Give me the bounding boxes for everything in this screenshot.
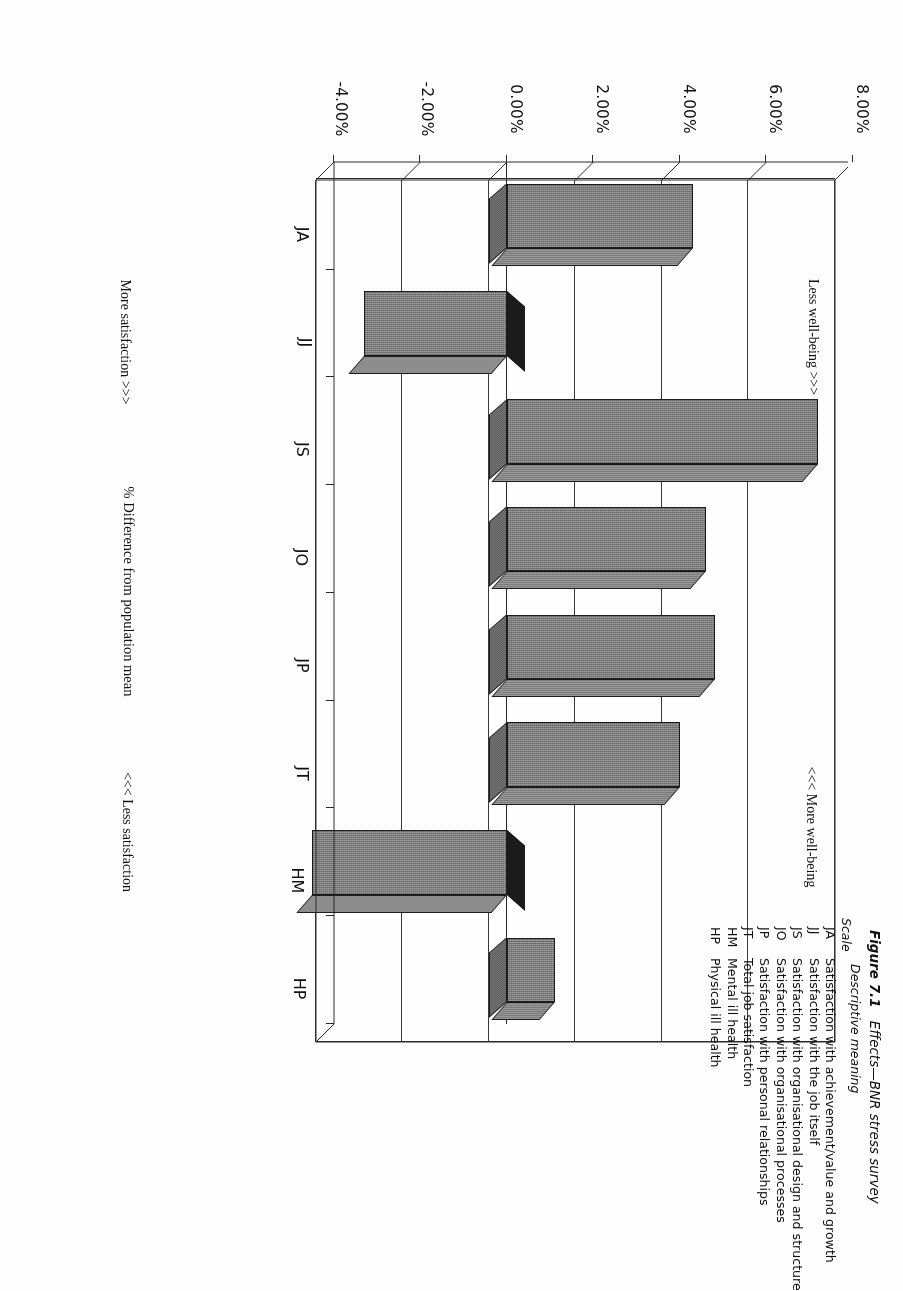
bar-chart: JAJJJSJOJPJTHMHP8.00%6.00%4.00%2.00%0.00…	[303, 147, 848, 1052]
value-axis-title: % Difference from population mean	[120, 487, 137, 697]
value-tick	[506, 155, 507, 162]
category-label-jo: JO	[292, 549, 311, 566]
category-tick	[326, 700, 334, 701]
legend-row: HPPhysical ill health	[707, 918, 723, 1218]
value-tick-label: -4.00%	[332, 82, 350, 137]
figure-caption-block: Figure 7.1 Effects—BNR stress survey Sca…	[707, 918, 883, 1218]
legend-meaning-header: Descriptive meaning	[848, 964, 863, 1093]
legend-row-code: JJ	[805, 918, 821, 958]
legend-row-code: JS	[789, 918, 805, 958]
legend-row-description: Satisfaction with achievement/value and …	[822, 958, 838, 1263]
gridline	[748, 180, 749, 1042]
value-tick	[766, 155, 767, 162]
legend-rows: JASatisfaction with achievement/value an…	[707, 918, 838, 1218]
legend-row-description: Physical ill health	[707, 958, 723, 1218]
value-tick-label: -2.00%	[418, 82, 436, 137]
bar-face	[312, 830, 507, 895]
legend-row-code: JT	[740, 918, 756, 958]
bar-top-face	[491, 679, 714, 697]
bar-top-face	[491, 571, 706, 589]
figure-number: Figure 7.1	[867, 930, 883, 1008]
bar-face	[507, 399, 818, 464]
bar-jo	[507, 507, 706, 572]
category-tick	[326, 592, 334, 593]
value-tick-label: 6.00%	[767, 84, 785, 133]
bar-hm	[312, 830, 507, 895]
bar-top-face	[491, 787, 680, 805]
bar-face	[507, 184, 693, 249]
legend-row-description: Total job satisfaction	[740, 958, 756, 1218]
legend-row-code: HM	[723, 918, 739, 958]
figure-caption: Figure 7.1 Effects—BNR stress survey	[867, 918, 883, 1218]
legend-row-description: Satisfaction with the job itself	[805, 958, 821, 1218]
legend-row: JASatisfaction with achievement/value an…	[822, 918, 838, 1218]
legend-row: JSSatisfaction with organisational desig…	[789, 918, 805, 1218]
bar-face	[364, 291, 507, 356]
value-tick-label: 2.00%	[594, 84, 612, 133]
bar-top-face	[491, 464, 818, 482]
annotation-less-satisfaction: <<< Less satisfaction	[119, 772, 135, 892]
annotation-less-wellbeing: Less well-being >>>	[805, 279, 821, 395]
legend-row-description: Mental ill health	[723, 958, 739, 1218]
legend-row-code: JO	[772, 918, 788, 958]
bar-jp	[507, 615, 715, 680]
bar-ja	[507, 184, 693, 249]
bar-hp	[507, 938, 555, 1003]
category-tick	[326, 1023, 334, 1024]
bar-top-face	[349, 356, 507, 374]
bar-face	[507, 507, 706, 572]
legend-row-code: JA	[822, 918, 838, 958]
annotation-more-satisfaction: More satisfaction >>>	[117, 280, 133, 405]
category-label-js: JS	[293, 442, 312, 457]
bar-jj	[364, 291, 507, 356]
category-label-hp: HP	[290, 978, 309, 1000]
value-tick	[333, 155, 334, 162]
bar-top-face	[297, 895, 507, 913]
category-label-hm: HM	[288, 868, 307, 894]
category-tick	[326, 808, 334, 809]
gridline	[575, 180, 576, 1042]
value-tick-label: 4.00%	[680, 84, 698, 133]
legend-row-description: Satisfaction with organisational design …	[789, 958, 805, 1291]
category-label-jp: JP	[293, 658, 312, 672]
legend-row: HMMental ill health	[723, 918, 739, 1218]
bar-js	[507, 399, 818, 464]
gridline	[661, 180, 662, 1042]
bar-top-face	[491, 248, 693, 266]
legend-row-code: HP	[707, 918, 723, 958]
legend-row: JPSatisfaction with personal relationshi…	[756, 918, 772, 1218]
legend-row-description: Satisfaction with personal relationships	[756, 958, 772, 1218]
value-tick	[679, 155, 680, 162]
category-tick	[326, 269, 334, 270]
value-tick-label: 0.00%	[507, 84, 525, 133]
category-tick	[326, 484, 334, 485]
category-label-jj: JJ	[296, 337, 315, 346]
value-tick	[593, 155, 594, 162]
category-label-jt: JT	[293, 766, 312, 781]
figure-title: Effects—BNR stress survey	[867, 1021, 883, 1204]
annotation-more-wellbeing: <<< More well-being	[803, 767, 819, 888]
legend-row-code: JP	[756, 918, 772, 958]
category-tick	[326, 377, 334, 378]
frame-line	[835, 162, 848, 180]
value-tick	[420, 155, 421, 162]
bar-face	[507, 722, 680, 787]
bar-face	[507, 938, 555, 1003]
legend-row: JTTotal job satisfaction	[740, 918, 756, 1218]
bar-jt	[507, 722, 680, 787]
gridline	[834, 180, 835, 1042]
value-tick	[852, 155, 853, 162]
value-tick-label: 8.00%	[853, 84, 871, 133]
legend-row: JJSatisfaction with the job itself	[805, 918, 821, 1218]
category-label-ja: JA	[293, 227, 312, 242]
legend-row: JOSatisfaction with organisational proce…	[772, 918, 788, 1218]
legend-row-description: Satisfaction with organisational process…	[772, 958, 788, 1223]
category-tick	[326, 915, 334, 916]
bar-face	[507, 615, 715, 680]
